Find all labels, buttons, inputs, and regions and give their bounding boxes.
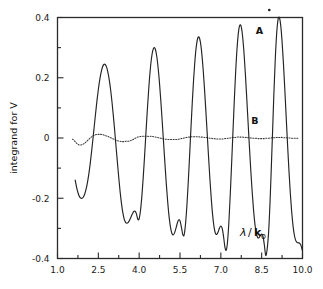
x-tick-label: 2.5 — [91, 265, 105, 275]
x-tick-label: 7.0 — [214, 265, 229, 275]
k-subscript: o — [261, 232, 266, 241]
curve-label-b: B — [251, 115, 258, 126]
y-tick-label: 0 — [44, 133, 50, 143]
curve-label-a: A — [256, 25, 264, 36]
x-tick-label: 1.0 — [50, 265, 65, 275]
y-tick-label: -0.4 — [32, 254, 50, 264]
x-tick-label: 4.0 — [132, 265, 147, 275]
integrand-plot: integrand for V 0.40.20-0.2-0.4 1.02.54.… — [0, 0, 323, 289]
y-axis-title: integrand for V — [8, 102, 19, 174]
lambda-symbol: λ — [239, 226, 247, 239]
y-tick-label: 0.2 — [35, 73, 49, 83]
peak-marker-dot — [268, 9, 271, 12]
slash-symbol: / — [248, 226, 252, 239]
x-tick-label: 8.5 — [255, 265, 269, 275]
x-tick-label: 10.0 — [292, 265, 312, 275]
x-tick-label: 5.5 — [173, 265, 187, 275]
figure-container: integrand for V 0.40.20-0.2-0.4 1.02.54.… — [0, 0, 323, 289]
peak-markers — [268, 9, 271, 12]
y-tick-label: -0.2 — [32, 194, 50, 204]
y-tick-label: 0.4 — [35, 13, 50, 23]
plot-background — [0, 0, 323, 289]
